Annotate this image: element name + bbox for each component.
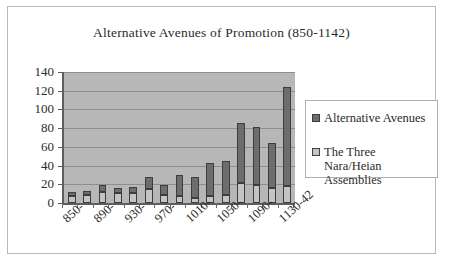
y-axis-tick-label: 120 xyxy=(35,84,55,97)
bar-segment-alternative-avenues[interactable] xyxy=(114,188,122,193)
x-axis-tick xyxy=(62,203,63,208)
bar-segment-nara-heian-assemblies[interactable] xyxy=(114,193,122,203)
bar-slot xyxy=(249,72,264,203)
bar-slot xyxy=(64,72,79,203)
bar-segment-nara-heian-assemblies[interactable] xyxy=(176,196,184,203)
legend-label: Alternative Avenues xyxy=(324,111,425,125)
stacked-bar[interactable] xyxy=(99,72,107,203)
stacked-bar[interactable] xyxy=(283,72,291,203)
bar-slot xyxy=(233,72,248,203)
bar-slot xyxy=(203,72,218,203)
y-axis-tick-label: 140 xyxy=(35,65,55,78)
stacked-bar[interactable] xyxy=(206,72,214,203)
y-axis-tick-label: 60 xyxy=(41,140,54,153)
bar-slot xyxy=(79,72,94,203)
bar-slot xyxy=(218,72,233,203)
bar-slot xyxy=(126,72,141,203)
x-axis-tick xyxy=(216,203,217,208)
bar-segment-alternative-avenues[interactable] xyxy=(253,127,261,185)
y-axis: 020406080100120140 xyxy=(8,65,58,210)
bar-segment-alternative-avenues[interactable] xyxy=(176,175,184,196)
stacked-bar[interactable] xyxy=(268,72,276,203)
x-axis-tick xyxy=(185,203,186,208)
stacked-bar[interactable] xyxy=(160,72,168,203)
bar-segment-alternative-avenues[interactable] xyxy=(237,123,245,183)
bar-segment-alternative-avenues[interactable] xyxy=(99,185,107,192)
y-axis-tick-label: 100 xyxy=(35,102,55,115)
plot-area xyxy=(62,72,295,205)
x-axis-tick-label: 890- xyxy=(91,200,118,226)
bar-slot xyxy=(172,72,187,203)
bar-segment-alternative-avenues[interactable] xyxy=(191,177,199,199)
chart-frame: Alternative Avenues of Promotion (850-11… xyxy=(7,6,436,254)
bar-segment-alternative-avenues[interactable] xyxy=(283,87,291,186)
legend-swatch-icon xyxy=(312,148,320,156)
bar-series-group xyxy=(64,72,295,203)
x-axis: 850-890-930-970-1010-1050-1090-1130-42 xyxy=(8,203,338,273)
bar-slot xyxy=(156,72,171,203)
y-axis-tick-label: 20 xyxy=(41,177,54,190)
x-axis-tick xyxy=(124,203,125,208)
y-axis-tick-label: 80 xyxy=(41,121,54,134)
bar-slot xyxy=(110,72,125,203)
bar-segment-alternative-avenues[interactable] xyxy=(268,143,276,188)
legend-label: The Three Nara/Heian Assemblies xyxy=(324,145,436,187)
bar-segment-alternative-avenues[interactable] xyxy=(68,192,76,196)
stacked-bar[interactable] xyxy=(237,72,245,203)
x-axis-tick-label: 850- xyxy=(60,200,87,226)
x-axis-tick xyxy=(93,203,94,208)
chart-title: Alternative Avenues of Promotion (850-11… xyxy=(8,25,435,41)
chart-screenshot: Alternative Avenues of Promotion (850-11… xyxy=(0,0,455,275)
bar-slot xyxy=(141,72,156,203)
bar-segment-alternative-avenues[interactable] xyxy=(222,161,230,195)
chart-legend: Alternative AvenuesThe Three Nara/Heian … xyxy=(305,100,438,178)
stacked-bar[interactable] xyxy=(222,72,230,203)
bar-segment-alternative-avenues[interactable] xyxy=(145,177,153,189)
bar-segment-nara-heian-assemblies[interactable] xyxy=(83,195,91,203)
x-axis-tick xyxy=(278,203,279,208)
stacked-bar[interactable] xyxy=(83,72,91,203)
x-axis-tick-label: 970- xyxy=(152,200,179,226)
bar-segment-alternative-avenues[interactable] xyxy=(129,187,137,193)
stacked-bar[interactable] xyxy=(191,72,199,203)
stacked-bar[interactable] xyxy=(68,72,76,203)
bar-segment-alternative-avenues[interactable] xyxy=(160,185,168,194)
stacked-bar[interactable] xyxy=(114,72,122,203)
bar-segment-alternative-avenues[interactable] xyxy=(83,191,91,195)
bar-slot xyxy=(95,72,110,203)
bar-slot xyxy=(280,72,295,203)
y-axis-tick-label: 40 xyxy=(41,159,54,172)
x-axis-tick-label: 930- xyxy=(122,200,149,226)
bar-segment-nara-heian-assemblies[interactable] xyxy=(253,185,261,203)
stacked-bar[interactable] xyxy=(129,72,137,203)
stacked-bar[interactable] xyxy=(253,72,261,203)
bar-segment-nara-heian-assemblies[interactable] xyxy=(283,186,291,203)
stacked-bar[interactable] xyxy=(145,72,153,203)
x-axis-tick xyxy=(154,203,155,208)
legend-swatch-icon xyxy=(312,114,320,122)
x-axis-tick xyxy=(247,203,248,208)
bar-segment-nara-heian-assemblies[interactable] xyxy=(145,189,153,203)
stacked-bar[interactable] xyxy=(176,72,184,203)
legend-item[interactable]: Alternative Avenues xyxy=(312,111,436,125)
legend-item[interactable]: The Three Nara/Heian Assemblies xyxy=(312,145,436,187)
bar-slot xyxy=(264,72,279,203)
bar-segment-alternative-avenues[interactable] xyxy=(206,163,214,196)
bar-slot xyxy=(187,72,202,203)
